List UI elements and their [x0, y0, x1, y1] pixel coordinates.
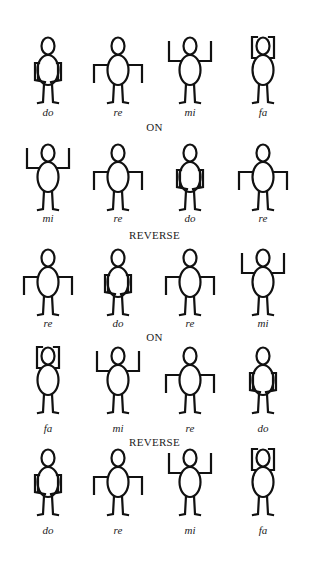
- hand-sign-figure-re: [160, 346, 220, 416]
- syllable-label: do: [233, 422, 293, 434]
- syllable-label: re: [88, 212, 148, 224]
- syllable-label: re: [233, 212, 293, 224]
- syllable-label: mi: [233, 317, 293, 329]
- syllable-label: re: [88, 106, 148, 118]
- syllable-label: mi: [160, 106, 220, 118]
- syllable-label: re: [160, 422, 220, 434]
- syllable-label: re: [160, 317, 220, 329]
- hand-sign-figure-re: [88, 143, 148, 213]
- syllable-label: re: [88, 524, 148, 536]
- section-heading: REVERSE: [0, 229, 309, 241]
- hand-sign-figure-re: [18, 248, 78, 318]
- hand-sign-figure-mi: [160, 36, 220, 106]
- section-heading: REVERSE: [0, 436, 309, 448]
- syllable-label: do: [18, 106, 78, 118]
- syllable-label: fa: [18, 422, 78, 434]
- hand-sign-figure-fa: [18, 346, 78, 416]
- hand-sign-figure-do: [160, 143, 220, 213]
- hand-sign-figure-do: [233, 346, 293, 416]
- hand-sign-figure-fa: [233, 448, 293, 518]
- hand-sign-figure-do: [18, 36, 78, 106]
- syllable-label: do: [18, 524, 78, 536]
- hand-sign-figure-re: [160, 248, 220, 318]
- hand-sign-figure-do: [18, 448, 78, 518]
- hand-sign-figure-re: [233, 143, 293, 213]
- syllable-label: mi: [160, 524, 220, 536]
- hand-sign-figure-fa: [233, 36, 293, 106]
- syllable-label: fa: [233, 524, 293, 536]
- syllable-label: re: [18, 317, 78, 329]
- hand-sign-figure-mi: [160, 448, 220, 518]
- syllable-label: fa: [233, 106, 293, 118]
- hand-sign-figure-re: [88, 36, 148, 106]
- section-heading: ON: [0, 331, 309, 343]
- syllable-label: mi: [18, 212, 78, 224]
- hand-sign-figure-do: [88, 248, 148, 318]
- section-heading: ON: [0, 121, 309, 133]
- hand-sign-figure-re: [88, 448, 148, 518]
- syllable-label: do: [88, 317, 148, 329]
- hand-sign-figure-mi: [88, 346, 148, 416]
- hand-sign-figure-mi: [233, 248, 293, 318]
- syllable-label: do: [160, 212, 220, 224]
- syllable-label: mi: [88, 422, 148, 434]
- hand-sign-figure-mi: [18, 143, 78, 213]
